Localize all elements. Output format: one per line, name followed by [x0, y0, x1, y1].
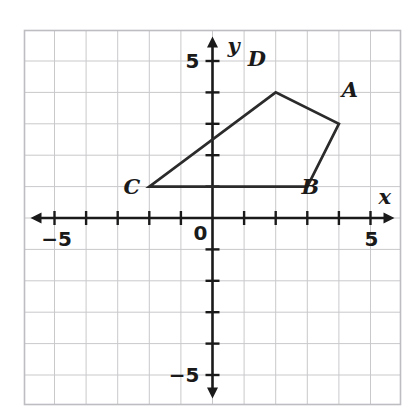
y-axis-name: y — [226, 33, 241, 58]
y-axis-arrow-down — [207, 388, 218, 399]
x-axis-tick-label-pos-five: 5 — [365, 227, 379, 251]
x-axis-name: x — [377, 184, 391, 209]
origin-label: 0 — [194, 221, 208, 245]
vertex-label-d: D — [247, 46, 267, 71]
coordinate-plane-figure: −5 5 5 −5 0 x y ABCD — [0, 0, 415, 417]
vertex-label-c: C — [124, 174, 141, 199]
vertex-label-a: A — [340, 77, 358, 102]
vertex-label-b: B — [301, 174, 320, 199]
y-axis-arrow-up — [207, 37, 218, 48]
coordinate-plane-svg: −5 5 5 −5 0 x y ABCD — [0, 0, 415, 417]
x-axis-arrow-right — [384, 213, 395, 224]
vertex-labels: ABCD — [124, 46, 359, 200]
y-axis-tick-label-pos-five: 5 — [186, 49, 200, 73]
y-axis-tick-label-neg-five: −5 — [169, 363, 200, 387]
x-axis-arrow-left — [31, 213, 42, 224]
x-axis-tick-label-neg-five: −5 — [41, 227, 72, 251]
